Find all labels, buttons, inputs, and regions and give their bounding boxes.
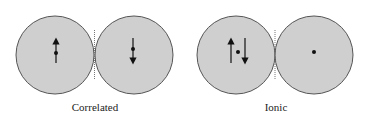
ionic-label: Ionic: [265, 101, 288, 113]
electron-dot: [236, 50, 240, 54]
correlated-label: Correlated: [72, 101, 118, 113]
atom-right: [275, 16, 353, 94]
diagram-canvas: [0, 0, 369, 120]
electron-dot: [54, 51, 58, 55]
atom-left: [16, 16, 94, 94]
atom-right: [95, 16, 173, 94]
correlated-panel: [16, 16, 173, 94]
electron-dot: [131, 47, 135, 51]
atom-left: [197, 16, 275, 94]
nucleus-dot: [312, 50, 316, 54]
ionic-panel: [197, 16, 353, 94]
